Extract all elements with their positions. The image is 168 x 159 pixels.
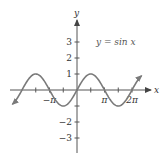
y-tick-label: −3: [59, 133, 73, 143]
x-tick-label: 2π: [125, 95, 139, 105]
y-tick-label: −2: [59, 117, 72, 127]
x-axis-label: x: [154, 85, 159, 95]
y-tick-label: 1: [66, 69, 72, 79]
y-tick-label: 2: [66, 53, 72, 63]
sine-graph: −ππ2π 321−2−3 x y y = sin x: [0, 0, 168, 159]
y-tick-label: 3: [66, 37, 72, 47]
equation-label: y = sin x: [95, 37, 136, 47]
y-axis-label: y: [73, 8, 80, 18]
